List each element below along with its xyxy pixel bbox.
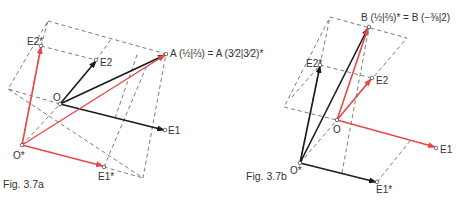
label-o-star-b: O* — [290, 165, 302, 176]
label-e2-a: E2 — [100, 57, 112, 68]
vector-e2 — [60, 61, 96, 104]
caption-fig-3-7a: Fig. 3.7a — [3, 178, 44, 190]
vector-ob — [337, 28, 368, 120]
label-e1-a: E1 — [168, 125, 180, 136]
label-point-b: B (½|⅔)* = B (−⅜|2) — [361, 12, 450, 23]
vector-e2 — [337, 79, 371, 120]
vector-oa — [60, 55, 165, 104]
label-e1-b: E1 — [440, 144, 452, 155]
points — [298, 25, 438, 184]
vector-e2-star — [22, 47, 41, 145]
label-e1-star-a: E1* — [98, 171, 114, 182]
vector-e2-star — [300, 66, 320, 163]
label-o-b: O — [333, 124, 341, 135]
label-e2-star-a: E2* — [27, 36, 43, 47]
label-o-a: O — [53, 92, 61, 103]
figure-3-7b — [284, 17, 438, 184]
vector-o-star-a — [22, 55, 165, 145]
label-e2-star-b: E2* — [306, 58, 322, 69]
label-e1-star-b: E1* — [376, 184, 392, 195]
label-point-a: A (½|⅔) = A (3⁄2|3⁄2)* — [170, 48, 263, 59]
label-o-star-a: O* — [13, 150, 25, 161]
vector-e1-star — [300, 163, 376, 182]
label-e2-b: E2 — [376, 75, 388, 86]
caption-fig-3-7b: Fig. 3.7b — [246, 170, 287, 182]
vector-e1-star — [22, 145, 103, 166]
diagram-canvas — [0, 0, 456, 202]
vector-e1 — [60, 104, 164, 130]
vector-e1 — [337, 120, 435, 147]
